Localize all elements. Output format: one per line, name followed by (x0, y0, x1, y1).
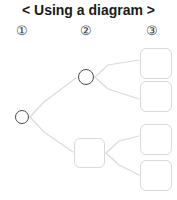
node-root[interactable] (15, 110, 29, 124)
node-level2-circle[interactable] (78, 69, 94, 85)
node-level2-square[interactable] (74, 138, 105, 168)
edge-n2b-to-n3d (106, 153, 139, 175)
node-level3-box-3[interactable] (140, 124, 172, 155)
node-level3-box-4[interactable] (140, 160, 172, 191)
node-level3-box-1[interactable] (140, 48, 172, 79)
edge-n2a-to-n3b (95, 77, 139, 99)
edge-root-to-n2a (30, 78, 76, 117)
diagram-screen: < Using a diagram > ① ② ③ (0, 0, 177, 200)
edge-n2b-to-n3c (106, 136, 139, 153)
node-level3-box-2[interactable] (140, 81, 172, 112)
edge-n2a-to-n3a (95, 60, 139, 77)
edge-root-to-n2b (30, 117, 73, 152)
